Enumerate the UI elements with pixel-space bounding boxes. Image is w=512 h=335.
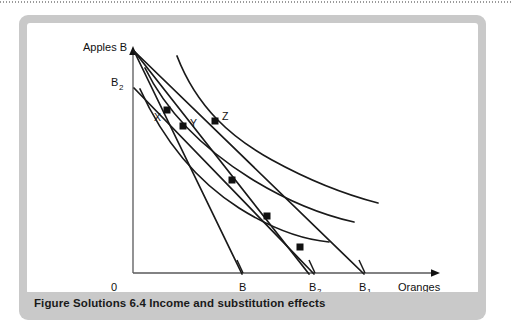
figure-frame: Apples B B 2 0 B B 2 B 1 Oranges X Y [19, 15, 486, 320]
annotation-label-Y: Y [190, 117, 197, 129]
figure-page: Apples B B 2 0 B B 2 B 1 Oranges X Y [0, 0, 512, 335]
y-axis-tick-label-B2: B [111, 76, 118, 88]
marker-point-Y [180, 123, 187, 130]
budget-line-B1 [134, 51, 364, 274]
x-axis-ticks-group [237, 260, 365, 273]
budget-lines-group [134, 51, 364, 274]
marker-point-6 [297, 244, 304, 251]
economics-chart: Apples B B 2 0 B B 2 B 1 Oranges X Y [27, 23, 478, 294]
indifference-curves-group [140, 56, 378, 242]
indifference-curve-I3-upper [177, 56, 378, 203]
marker-point-X [164, 107, 171, 114]
marker-point-Z [212, 118, 219, 125]
annotation-label-X: X [154, 111, 161, 123]
y-axis-tick-label-B2-subscript: 2 [119, 83, 124, 92]
figure-caption-text: Figure Solutions 6.4 Income and substitu… [27, 297, 325, 309]
marker-point-4 [229, 177, 236, 184]
data-point-markers-group [164, 107, 304, 251]
budget-line-auxiliary [134, 51, 309, 274]
figure-caption-bar: Figure Solutions 6.4 Income and substitu… [27, 292, 478, 313]
y-axis-title: Apples B [83, 41, 127, 53]
x-axis-arrow-icon [431, 269, 440, 277]
annotation-label-Z: Z [222, 110, 229, 122]
page-top-dotted-rule [0, 1, 512, 3]
marker-point-5 [264, 213, 271, 220]
plot-panel: Apples B B 2 0 B B 2 B 1 Oranges X Y [27, 23, 478, 294]
